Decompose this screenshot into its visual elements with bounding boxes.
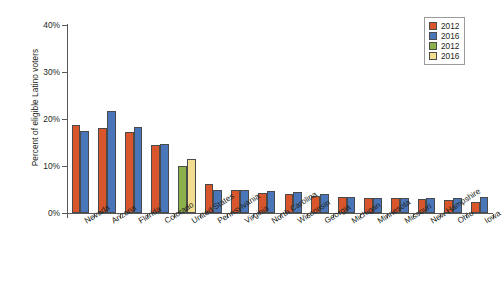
bar — [125, 132, 134, 213]
x-axis-label: Wisconsin — [296, 218, 301, 226]
x-axis-label: Nevada — [83, 218, 88, 226]
x-axis-label: Michigan — [350, 218, 355, 226]
bar — [480, 197, 489, 213]
x-axis-label: Missouri — [403, 218, 408, 226]
y-axis-tick-label-wrap: 0% — [22, 213, 60, 214]
y-axis-tick-label: 0% — [26, 208, 60, 218]
x-axis-label: Ohio — [456, 218, 461, 226]
x-axis-label: Georgia — [323, 218, 328, 226]
y-axis-tick-label-wrap: 20% — [22, 119, 60, 120]
x-axis-label: Florida — [137, 218, 142, 226]
x-axis-label: North Carolina — [270, 218, 275, 226]
legend-label: 2012 — [441, 22, 459, 31]
bar — [72, 125, 81, 213]
x-axis-tick — [67, 214, 68, 218]
bar — [151, 145, 160, 213]
bar — [160, 144, 169, 213]
y-axis-title: Percent of eligible Latino voters — [31, 13, 40, 203]
x-axis-label: Colorado — [163, 218, 168, 226]
legend-item-2016-state: 2016 — [429, 31, 459, 41]
bar — [98, 128, 107, 213]
legend-swatch-icon — [429, 42, 437, 50]
x-axis-label: New Hampshire — [429, 218, 434, 226]
x-axis-label: Iowa — [483, 218, 488, 226]
bar — [107, 111, 116, 213]
y-axis-tick-label: 10% — [26, 161, 60, 171]
x-axis-label: Virginia — [243, 218, 248, 226]
legend-item-2016-us: 2016 — [429, 51, 459, 61]
chart-legend: 2012201620122016 — [424, 17, 465, 65]
x-axis-label: Arizona — [110, 218, 115, 226]
legend-item-2012-us: 2012 — [429, 41, 459, 51]
legend-swatch-icon — [429, 52, 437, 60]
legend-label: 2012 — [441, 42, 459, 51]
y-axis-tick-label-wrap: 30% — [22, 72, 60, 73]
bar-chart: Percent of eligible Latino voters 0%10%2… — [0, 0, 503, 285]
y-axis-tick-label: 40% — [26, 20, 60, 30]
y-axis-tick-label-wrap: 10% — [22, 166, 60, 167]
bar — [134, 127, 143, 213]
y-axis-tick-label: 20% — [26, 114, 60, 124]
legend-swatch-icon — [429, 32, 437, 40]
x-axis-label: United States — [190, 218, 195, 226]
legend-label: 2016 — [441, 52, 459, 61]
y-axis-tick-label-wrap: 40% — [22, 25, 60, 26]
legend-swatch-icon — [429, 22, 437, 30]
y-axis-tick-label: 30% — [26, 67, 60, 77]
x-axis-label: Minnesota — [376, 218, 381, 226]
x-axis-label: Pennsylvania — [216, 218, 221, 226]
bar — [80, 131, 89, 213]
legend-label: 2016 — [441, 32, 459, 41]
legend-item-2012-state: 2012 — [429, 21, 459, 31]
